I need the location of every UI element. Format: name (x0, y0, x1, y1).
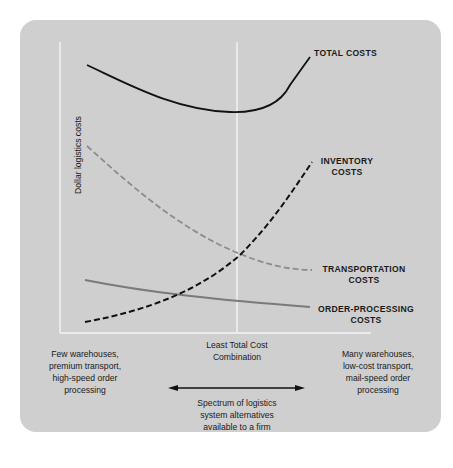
total-costs-label: TOTAL COSTS (314, 48, 404, 59)
spectrum-caption: Spectrum of logistics system alternative… (182, 397, 292, 433)
arrow-right-icon (295, 385, 305, 391)
y-axis-label: Dollar logistics costs (73, 95, 83, 215)
transportation-costs-label: TRANSPORTATION COSTS (312, 264, 416, 286)
right-caption: Many warehouses, low-cost transport, mai… (328, 348, 428, 396)
total-costs-curve (87, 57, 310, 112)
least-total-cost-label: Least Total Cost Combination (187, 339, 287, 363)
order-processing-costs-label: ORDER-PROCESSING COSTS (312, 304, 420, 326)
transportation-curve (87, 146, 312, 270)
inventory-curve (85, 162, 312, 322)
arrow-left-icon (168, 385, 178, 391)
left-caption: Few warehouses, premium transport, high-… (35, 348, 135, 396)
inventory-costs-label: INVENTORY COSTS (312, 156, 382, 178)
